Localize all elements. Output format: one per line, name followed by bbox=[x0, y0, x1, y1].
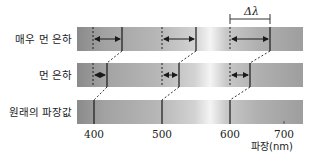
spectrum-bar-distant bbox=[77, 63, 303, 87]
row-label-very-distant-galaxy: 매우 먼 은하 bbox=[15, 33, 72, 45]
row-label-original-wavelength: 원래의 파장값 bbox=[9, 106, 72, 118]
redshift-diagram: Δλ 매우 먼 은하 먼 은하 원래의 파장값 400 500 600 700 … bbox=[0, 0, 313, 158]
spectrum-bar-original bbox=[77, 100, 303, 124]
tick-600: 600 bbox=[220, 128, 240, 140]
spectrum-bar-very-distant bbox=[77, 27, 303, 51]
axis-title-wavelength: 파장(nm) bbox=[251, 141, 293, 153]
row-label-distant-galaxy: 먼 은하 bbox=[39, 69, 72, 81]
delta-lambda-label: Δλ bbox=[244, 6, 259, 18]
tick-500: 500 bbox=[152, 128, 172, 140]
tick-700: 700 bbox=[274, 128, 294, 140]
tick-400: 400 bbox=[84, 128, 104, 140]
